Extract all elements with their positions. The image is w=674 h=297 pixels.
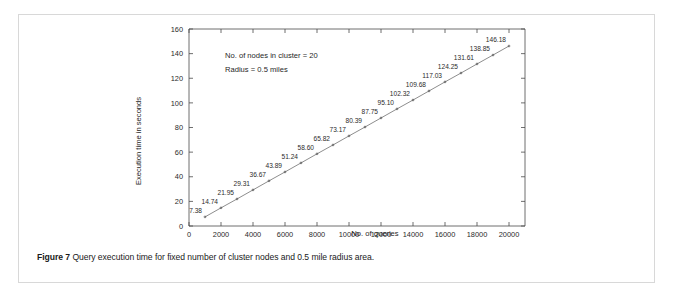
data-point-label: 95.10 [377,99,394,106]
x-tick-label: 2000 [213,230,229,239]
data-point-label: 21.95 [217,189,234,196]
annotation-nodes-in-cluster: No. of nodes in cluster = 20 [225,51,318,60]
data-point-label: 124.25 [438,63,459,70]
data-point-label: 117.03 [422,72,442,79]
y-axis-title: Execution time in seconds [134,97,143,185]
x-axis-title: No. of queries [351,229,398,238]
data-point-label: 58.60 [297,144,314,151]
x-tick-label: 20000 [499,230,520,239]
data-point-label: 7.38 [189,207,202,214]
y-tick-label: 60 [175,148,183,157]
x-tick-label: 0 [187,230,191,239]
y-tick-label: 20 [175,197,183,206]
data-point-label: 131.61 [454,54,475,61]
data-point-labels: 7.3814.7421.9529.3136.6743.8951.2458.606… [189,36,506,214]
data-point-label: 87.75 [361,108,378,115]
x-tick-label: 14000 [403,230,424,239]
y-tick-label: 140 [171,49,183,58]
data-point-label: 146.18 [486,36,507,43]
data-point-label: 36.67 [249,171,266,178]
chart-region: 0200040006000800010000120001400016000180… [19,15,656,243]
data-point-label: 138.85 [470,45,491,52]
y-tick-label: 80 [175,123,183,132]
data-point-label: 51.24 [281,153,298,160]
x-tick-label: 8000 [309,230,325,239]
data-point-label: 109.68 [406,81,427,88]
data-point-label: 80.39 [345,117,362,124]
data-point-label: 65.82 [313,135,330,142]
y-tick-label: 120 [171,74,183,83]
x-tick-label: 18000 [467,230,488,239]
y-tick-label: 40 [175,172,183,181]
x-tick-label: 16000 [435,230,456,239]
data-point-label: 43.89 [265,162,282,169]
figure-caption: Figure 7 Query execution time for fixed … [37,251,637,263]
x-tick-label: 6000 [277,230,293,239]
y-tick-label: 160 [171,25,183,34]
data-point-label: 102.32 [390,90,411,97]
x-tick-label: 4000 [245,230,261,239]
figure-caption-text: Query execution time for fixed number of… [72,252,374,262]
y-tick-label: 0 [179,222,183,231]
y-tick-label: 100 [171,99,183,108]
figure-card: 0200040006000800010000120001400016000180… [18,14,655,283]
figure-caption-lead: Figure 7 [37,252,70,262]
data-point-label: 29.31 [233,180,250,187]
execution-time-line-chart: 0200040006000800010000120001400016000180… [19,15,656,243]
data-point-label: 14.74 [201,198,218,205]
annotation-radius: Radius = 0.5 miles [225,65,288,74]
data-point-label: 73.17 [329,126,346,133]
